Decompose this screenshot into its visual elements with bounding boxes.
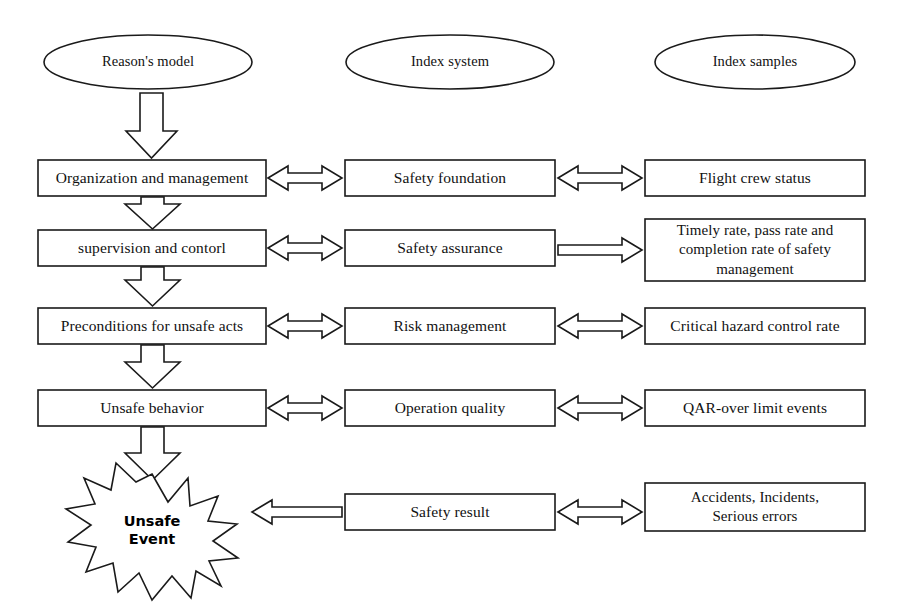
node-timely-pass-completion[interactable] (645, 219, 865, 281)
double-arrow-safety-result-accidents (558, 500, 642, 524)
node-index-system[interactable] (346, 35, 554, 89)
node-flight-crew-status[interactable] (645, 160, 865, 196)
double-arrow-organization-safety-foundation (268, 166, 342, 190)
block-arrow-supervision-to-preconditions (125, 267, 180, 306)
node-organization-and-management[interactable] (38, 160, 266, 196)
double-arrow-risk-management-critical-hazard (558, 314, 642, 338)
node-accidents-incidents[interactable] (645, 483, 865, 531)
double-arrow-supervision-safety-assurance (268, 236, 342, 260)
node-reason-model[interactable] (44, 35, 252, 89)
diagram-canvas: Reason's model Index system Index sample… (0, 0, 908, 604)
node-safety-assurance[interactable] (345, 230, 555, 266)
block-arrow-ellipse-to-organization (126, 93, 177, 158)
node-safety-foundation[interactable] (345, 160, 555, 196)
right-arrow-safety-assurance-to-timely-rate (558, 238, 642, 262)
node-operation-quality[interactable] (345, 390, 555, 426)
double-arrow-operation-quality-qar (558, 396, 642, 420)
node-unsafe-behavior[interactable] (38, 390, 266, 426)
node-qar-over-limit-events[interactable] (645, 390, 865, 426)
double-arrow-safety-foundation-flight-crew (558, 166, 642, 190)
node-index-samples[interactable] (655, 35, 855, 89)
node-preconditions-unsafe-acts[interactable] (38, 308, 266, 344)
node-supervision-and-control[interactable] (38, 230, 266, 266)
node-unsafe-event[interactable] (66, 463, 238, 600)
double-arrow-preconditions-risk-management (268, 314, 342, 338)
left-arrow-safety-result-to-unsafe-event (252, 500, 342, 524)
double-arrow-unsafe-behavior-operation-quality (268, 396, 342, 420)
block-arrow-organization-to-supervision (125, 197, 180, 229)
node-critical-hazard-control[interactable] (645, 308, 865, 344)
node-risk-management[interactable] (345, 308, 555, 344)
block-arrow-preconditions-to-unsafe-behavior (125, 345, 180, 388)
node-safety-result[interactable] (345, 494, 555, 530)
